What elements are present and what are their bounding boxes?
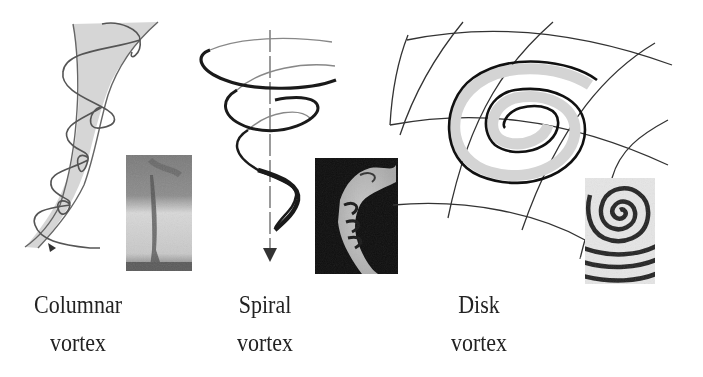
- spiral-label-line1: Spiral: [221, 290, 309, 320]
- spiral-vortex-label: Spiral vortex: [221, 290, 309, 358]
- arrowhead-icon: [48, 243, 56, 252]
- smoke-plume-photo: [315, 158, 398, 274]
- disk-vortex-label: Disk vortex: [435, 290, 523, 358]
- spiral-wave-pattern: [583, 178, 660, 284]
- tornado-photo: [126, 155, 192, 271]
- columnar-vortex-label: Columnar vortex: [25, 290, 131, 358]
- spiral-label-line2: vortex: [221, 328, 309, 358]
- disk-label-line1: Disk: [435, 290, 523, 320]
- columnar-label-line2: vortex: [25, 328, 131, 358]
- columnar-label-line1: Columnar: [25, 290, 131, 320]
- arrowhead-icon: [263, 248, 277, 262]
- disk-label-line2: vortex: [435, 328, 523, 358]
- spiral-band: [455, 69, 590, 176]
